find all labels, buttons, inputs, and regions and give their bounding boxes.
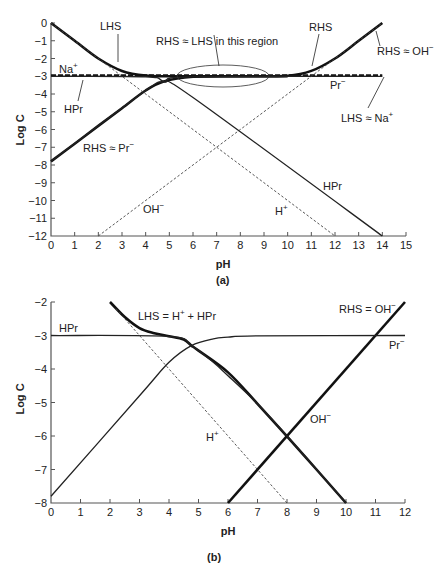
x-tick-label: 8 [237,239,243,251]
x-tick-label: 12 [329,239,341,251]
x-tick-label: 6 [225,506,231,518]
y-tick-label: −6 [34,430,47,442]
panel-label-a: (a) [216,274,230,286]
axis-lines [51,302,405,503]
y-tick-label: −7 [34,464,47,476]
hpr-arrow [78,80,83,101]
x-axis-title-b: pH [221,525,236,537]
x-tick-label: 5 [166,239,172,251]
annotation-rhs-oh: RHS ≈ OH− [377,43,434,57]
x-tick-label: 13 [353,239,365,251]
annotation-lhs: LHS [100,20,121,32]
x-tick-label: 10 [282,239,294,251]
chart-a-series [51,23,382,236]
annotation-pr-b: Pr− [389,337,405,351]
y-tick-label: −2 [34,53,47,65]
figure: 01234567891011121314150−1−2−3−4−5−6−7−8−… [0,0,446,573]
annotation-rhs: RHS [309,21,332,33]
series-pr [51,336,405,497]
annotation-region: RHS ≈ LHS in this region [156,35,278,47]
x-tick-label: 11 [306,239,317,251]
x-tick-label: 0 [48,239,54,251]
annotation-lhs-na: LHS ≈ Na+ [341,110,394,124]
x-tick-label: 7 [214,239,220,251]
series-h [116,309,287,503]
series-lhs-h-hpr [51,23,288,76]
y-tick-label: −12 [28,230,47,242]
annotation-hpr: HPr [59,322,78,334]
annotation-oh: OH− [143,201,165,215]
y-tick-label: −7 [34,141,47,153]
chart-a: 01234567891011121314150−1−2−3−4−5−6−7−8−… [14,17,434,286]
y-tick-label: −5 [34,397,47,409]
x-tick-label: 15 [400,239,412,251]
x-tick-label: 9 [313,506,319,518]
x-tick-label: 6 [190,239,196,251]
series-hpr [51,76,382,236]
annotation-pr: Pr− [330,77,346,91]
annotation-lhs-eq: LHS = H+ + HPr [138,308,216,322]
x-tick-label: 1 [77,506,83,518]
y-tick-label: −3 [34,70,47,82]
y-tick-label: −8 [34,159,47,171]
annotation-h-b: H+ [206,429,219,443]
annotation-rhs-eq: RHS = OH− [339,301,396,315]
x-tick-label: 9 [261,239,267,251]
x-tick-label: 3 [119,239,125,251]
x-tick-label: 5 [195,506,201,518]
y-tick-label: −4 [34,363,47,375]
axis-lines [51,23,406,236]
y-tick-label: 0 [41,17,47,29]
rhs-arrow [312,34,319,66]
x-tick-label: 2 [95,239,101,251]
y-tick-label: −1 [34,35,47,47]
annotation-hpr-left: HPr [64,103,83,115]
x-tick-label: 2 [107,506,113,518]
x-tick-label: 0 [48,506,54,518]
annotation-h: H+ [275,203,288,217]
y-tick-label: −5 [34,106,47,118]
annotation-oh-b: OH− [310,411,332,425]
annotation-rhs-pr: RHS ≈ Pr− [83,140,134,154]
x-tick-label: 12 [399,506,411,518]
annotation-hpr-right: HPr [323,180,342,192]
y-tick-label: −10 [28,195,47,207]
panel-label-b: (b) [207,551,221,563]
x-tick-label: 1 [72,239,78,251]
annotation-na: Na+ [59,61,78,75]
x-tick-label: 14 [376,239,388,251]
rhs-oh-arrow [376,31,380,46]
y-tick-label: −8 [34,497,47,509]
x-tick-label: 8 [284,506,290,518]
y-axis-title-b: Log C [14,383,26,414]
x-axis-title-a: pH [216,258,231,270]
x-tick-label: 3 [136,506,142,518]
x-tick-label: 4 [166,506,172,518]
y-tick-label: −2 [34,296,47,308]
chart-b: 0123456789101112−2−3−4−5−6−7−8 HPr LHS =… [14,296,411,563]
x-tick-label: 11 [370,506,381,518]
chart-b-series [51,302,405,503]
lhs-na-arrow [368,77,384,108]
y-tick-label: −3 [34,330,47,342]
x-tick-label: 4 [143,239,149,251]
y-tick-label: −4 [34,88,47,100]
x-tick-label: 7 [254,506,260,518]
y-tick-label: −6 [34,124,47,136]
y-tick-label: −9 [34,177,47,189]
y-tick-label: −11 [29,212,47,224]
series-lhs-h-hpr [110,302,346,503]
chart-b-axes: 0123456789101112−2−3−4−5−6−7−8 [34,296,411,518]
x-tick-label: 10 [340,506,352,518]
y-axis-title-a: Log C [14,114,26,145]
